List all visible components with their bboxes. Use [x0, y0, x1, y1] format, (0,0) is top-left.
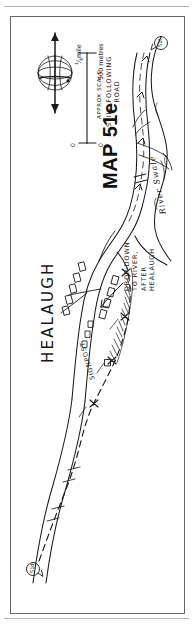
scale-imperial-denominator: 4: [79, 58, 84, 61]
annotation-drop-down-line1: DROP DOWN: [123, 242, 131, 291]
village-buildings: [62, 262, 119, 347]
scale-caption: APPROX SCALE: [96, 70, 102, 119]
annotation-drop-down: DROP DOWN TO RIVER, AFTER HEALAUGH: [123, 242, 157, 291]
annotation-drop-down-line4: HEALAUGH: [148, 242, 156, 291]
annotation-still-road-line1: STILL FOLLOWING: [105, 56, 113, 127]
map-frame: MAP 51e HEALAUGH SIGNPOST DROP DOWN TO R…: [10, 16, 185, 614]
drop-down-arrow: [101, 283, 123, 307]
annotation-drop-down-line3: AFTER: [140, 242, 148, 291]
field-boundary-ticks: [47, 467, 80, 521]
scale-metric-zero: 0: [97, 143, 104, 147]
marker-south-label: 51f: [157, 39, 163, 47]
scale-imperial-zero: 0: [69, 143, 76, 147]
map-canvas: MAP 51e HEALAUGH SIGNPOST DROP DOWN TO R…: [11, 17, 184, 613]
map-page: MAP 51e HEALAUGH SIGNPOST DROP DOWN TO R…: [0, 0, 193, 628]
place-label-healaugh: HEALAUGH: [39, 262, 57, 363]
marker-north-label: 51d: [29, 563, 35, 573]
scan-rule-top: [4, 6, 189, 7]
scan-rule-bottom: [4, 618, 189, 619]
scale-imperial-fraction: 1⁄4: [75, 58, 83, 65]
compass-arrow: [51, 33, 59, 113]
annotation-still-following-road: STILL FOLLOWING ROAD: [105, 56, 122, 127]
river-swale: [135, 37, 171, 265]
scale-imperial-max: 1⁄4mile: [67, 44, 85, 65]
annotation-still-road-line2: ROAD: [113, 56, 121, 127]
scale-bar: [79, 53, 96, 143]
annotation-drop-down-line2: TO RIVER,: [131, 242, 139, 291]
scale-imperial-numerator: 1: [74, 62, 79, 65]
scale-imperial-unit: mile: [75, 44, 83, 58]
